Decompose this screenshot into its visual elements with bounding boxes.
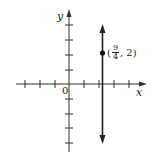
x-axis-label: x — [136, 87, 142, 98]
y-axis-label: y — [57, 11, 63, 22]
point-marker — [100, 50, 105, 55]
point-label-rest: , 2) — [120, 48, 137, 58]
y-axis — [67, 9, 72, 152]
y-axis-arrow-icon — [67, 9, 72, 17]
origin-label: 0 — [62, 86, 68, 96]
point-label-fraction: 9 4 — [112, 44, 119, 61]
line-up-arrow-icon — [100, 24, 106, 33]
point-label: ( 9 4 , 2) — [107, 44, 137, 61]
line-down-arrow-icon — [100, 135, 106, 144]
x-axis — [16, 82, 147, 87]
fraction-denominator: 4 — [113, 53, 118, 61]
coordinate-plane — [0, 0, 157, 164]
point-label-open: ( — [107, 48, 111, 58]
